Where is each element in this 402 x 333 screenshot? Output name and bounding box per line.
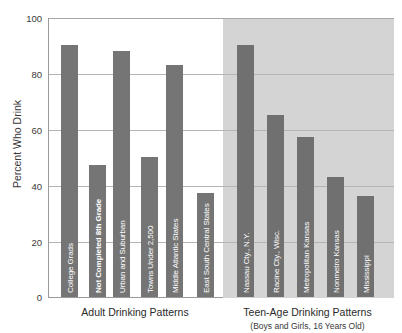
bar-label: Middle Atlantic States — [170, 219, 179, 293]
gridline-60 — [49, 130, 394, 131]
bar-not-completed-8th-grade: Not Completed 8th Grade — [89, 165, 106, 297]
bar-label: Nonmetro Kansas — [331, 230, 340, 293]
teen-group-subcaption: (Boys and Girls, 16 Years Old) — [222, 321, 393, 331]
adult-group-caption: Adult Drinking Patterns — [48, 306, 222, 318]
bar-label: Mississippi — [361, 255, 370, 293]
gridline-80 — [49, 74, 394, 75]
bar-mississippi: Mississippi — [357, 196, 374, 297]
bar-east-south-central-states: East South Central States — [197, 193, 214, 297]
bar-metropolitan-kansas: Metropolitan Kansas — [297, 137, 314, 297]
bar-college-grads: College Grads — [61, 45, 78, 297]
bar-urban-and-suburban: Urban and Suburban — [113, 51, 130, 297]
bar-label: College Grads — [65, 243, 74, 293]
bar-label: Metropolitan Kansas — [301, 222, 310, 293]
bar-chart: Percent Who Drink 100 80 60 40 20 0 Coll… — [0, 0, 402, 333]
gridline-100 — [49, 18, 394, 19]
y-tick-label-20: 20 — [8, 237, 42, 248]
teen-group-caption: Teen-Age Drinking Patterns — [222, 306, 393, 318]
bar-racine-cty-wisc: Racine Cty., Wisc. — [267, 115, 284, 297]
bar-label: Urban and Suburban — [117, 221, 126, 293]
y-tick-label-0: 0 — [8, 292, 42, 303]
y-tick-label-40: 40 — [8, 181, 42, 192]
bar-label: Towns Under 2,500 — [145, 226, 154, 293]
plot-area: College Grads Not Completed 8th Grade Ur… — [48, 18, 393, 298]
bar-label: Nassau Cty., N.Y. — [241, 233, 250, 293]
y-axis-title: Percent Who Drink — [11, 64, 23, 224]
bar-towns-under-2500: Towns Under 2,500 — [141, 157, 158, 297]
bar-nonmetro-kansas: Nonmetro Kansas — [327, 177, 344, 297]
bar-label: Not Completed 8th Grade — [93, 199, 102, 293]
y-tick-label-100: 100 — [8, 13, 42, 24]
y-tick-label-80: 80 — [8, 69, 42, 80]
bar-nassau-cty-ny: Nassau Cty., N.Y. — [237, 45, 254, 297]
bar-label: East South Central States — [201, 203, 210, 293]
bar-middle-atlantic-states: Middle Atlantic States — [166, 65, 183, 297]
bar-label: Racine Cty., Wisc. — [271, 230, 280, 293]
y-tick-label-60: 60 — [8, 125, 42, 136]
